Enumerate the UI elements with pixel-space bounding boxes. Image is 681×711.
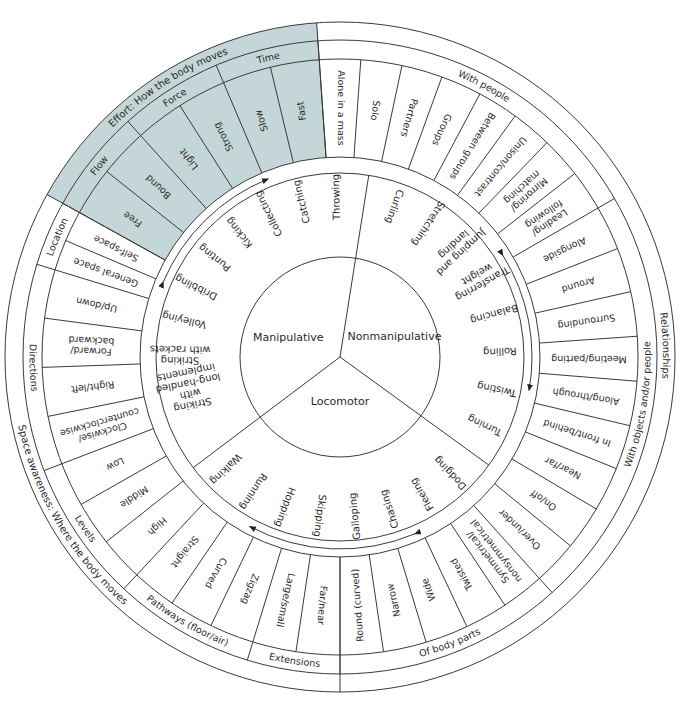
- item-alone-in-a-mass: Alone in a mass: [336, 70, 347, 145]
- skill-chasing: Chasing: [378, 488, 401, 530]
- item-middle: Middle: [118, 484, 150, 511]
- item-twisted: Twisted: [448, 556, 475, 593]
- item-divider: [42, 364, 140, 367]
- svg-text:Running: Running: [238, 471, 269, 511]
- svg-text:Up/down: Up/down: [75, 295, 118, 315]
- item-round-curved: Round (curved): [349, 569, 365, 643]
- center-label-locomotor: Locomotor: [311, 395, 370, 408]
- skill-galloping: Galloping: [347, 492, 362, 540]
- item-surrounding: Surrounding: [557, 312, 616, 331]
- item-zigzag: Zigzag: [239, 572, 261, 606]
- svg-text:On/off: On/off: [528, 488, 558, 514]
- svg-text:Twisted: Twisted: [448, 556, 475, 593]
- item-over-under: Over/under: [496, 507, 543, 552]
- item-divider: [540, 336, 638, 343]
- svg-text:Striking: Striking: [161, 355, 200, 367]
- svg-text:Along/through: Along/through: [552, 386, 620, 407]
- svg-text:Around: Around: [561, 275, 597, 295]
- svg-text:Narrow: Narrow: [384, 582, 402, 618]
- skill-dodging: Dodging: [432, 454, 469, 492]
- item-divider: [382, 66, 402, 162]
- item-low: Low: [104, 455, 126, 473]
- svg-text:Alongside: Alongside: [541, 235, 588, 265]
- svg-text:Galloping: Galloping: [347, 492, 362, 540]
- item-around: Around: [561, 275, 597, 295]
- item-divider: [354, 60, 361, 158]
- svg-text:Middle: Middle: [118, 484, 150, 511]
- item-forward-backward: Forward/backward: [68, 334, 115, 358]
- item-mirroring-matching: Mirroring/matching: [501, 168, 550, 215]
- item-in-front-behind: In front/behind: [542, 418, 612, 450]
- item-divider: [369, 555, 383, 652]
- skill-catching: Catching: [291, 179, 312, 225]
- item-divider: [296, 555, 310, 652]
- category-label-space: Space awareness: Where the body moves: [16, 424, 130, 607]
- skill-rolling: Rolling: [483, 346, 517, 358]
- svg-text:Dodging: Dodging: [432, 454, 469, 492]
- item-clockwise-counterclockwise: Clockwise/counterclockwise: [59, 406, 144, 450]
- skill-stretching: Stretching: [410, 199, 448, 248]
- svg-text:Fleeing: Fleeing: [408, 476, 436, 513]
- item-groups: Groups: [430, 112, 454, 147]
- item-solo: Solo: [369, 100, 383, 122]
- svg-text:Stretching: Stretching: [410, 199, 448, 248]
- svg-text:Dribbling: Dribbling: [173, 273, 219, 303]
- svg-text:Hopping: Hopping: [273, 486, 298, 529]
- svg-text:Meeting/parting: Meeting/parting: [551, 354, 627, 365]
- item-divider: [45, 318, 142, 331]
- svg-text:Right/left: Right/left: [70, 379, 115, 395]
- skill-collecting: Collecting: [252, 189, 284, 238]
- svg-text:Catching: Catching: [291, 179, 312, 225]
- skill-striking-with-rackets: Strikingwith rackets: [149, 344, 210, 367]
- skill-turning: Turning: [466, 413, 505, 439]
- skill-kicking: Kicking: [223, 215, 254, 250]
- skill-twisting: Twisting: [476, 380, 518, 399]
- subcategory-label-levels: Levels: [73, 513, 99, 544]
- item-large-small: Large/small: [275, 572, 298, 628]
- shaded-regions: [47, 23, 326, 260]
- skill-curling: Curling: [383, 188, 405, 225]
- svg-text:Groups: Groups: [430, 112, 454, 147]
- svg-text:Zigzag: Zigzag: [239, 572, 261, 606]
- svg-text:Punting: Punting: [196, 242, 233, 274]
- svg-text:Rolling: Rolling: [483, 346, 517, 358]
- item-along-through: Along/through: [552, 386, 620, 407]
- center-label-nonmanipulative: Nonmanipulative: [348, 330, 442, 343]
- item-on-off: On/off: [528, 488, 558, 514]
- skill-fleeing: Fleeing: [408, 476, 436, 513]
- svg-text:Balancing: Balancing: [469, 302, 519, 326]
- subcategory-label-directions: Directions: [28, 344, 41, 393]
- svg-text:In front/behind: In front/behind: [542, 418, 612, 450]
- skill-balancing: Balancing: [469, 302, 519, 326]
- subcategory-label-location: Location: [44, 216, 70, 257]
- svg-text:Collecting: Collecting: [252, 189, 284, 238]
- svg-text:Skipping: Skipping: [312, 494, 328, 538]
- item-alongside: Alongside: [541, 235, 588, 265]
- center-label-manipulative: Manipulative: [253, 331, 324, 344]
- svg-text:Turning: Turning: [466, 413, 505, 439]
- item-near-far: Near/far: [543, 455, 583, 482]
- skill-hopping: Hopping: [273, 486, 298, 529]
- svg-text:Solo: Solo: [369, 100, 383, 122]
- item-divider: [539, 373, 637, 381]
- item-divider: [398, 548, 426, 642]
- item-narrow: Narrow: [384, 582, 402, 618]
- svg-text:Walking: Walking: [208, 452, 244, 487]
- skill-group-divider: [340, 357, 489, 465]
- item-curved: Curved: [203, 556, 230, 591]
- subcategory-divider: [247, 548, 281, 660]
- svg-text:Near/far: Near/far: [543, 455, 583, 482]
- svg-text:Surrounding: Surrounding: [557, 312, 616, 331]
- skill-walking: Walking: [208, 452, 244, 487]
- svg-text:Over/under: Over/under: [496, 507, 543, 552]
- item-leading-following: Leading/following: [523, 198, 570, 240]
- svg-text:Partners: Partners: [399, 97, 420, 138]
- skill-volleying: Volleying: [161, 310, 208, 331]
- skill-punting: Punting: [196, 242, 233, 274]
- skill-running: Running: [238, 471, 269, 511]
- item-meeting-parting: Meeting/parting: [551, 354, 627, 365]
- item-partners: Partners: [399, 97, 420, 138]
- movement-framework-wheel: ManipulativeNonmanipulativeLocomotorThro…: [0, 0, 681, 711]
- svg-text:Chasing: Chasing: [378, 488, 401, 530]
- svg-text:Straight: Straight: [169, 534, 201, 571]
